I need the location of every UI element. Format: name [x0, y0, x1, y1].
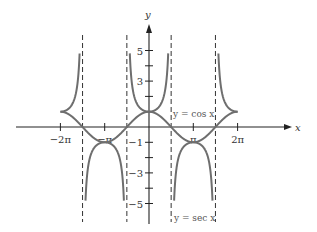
axes: x y: [16, 9, 301, 224]
y-axis-label: y: [144, 9, 151, 20]
x-axis-arrow-icon: [284, 124, 292, 130]
y-tick-label: −5: [128, 199, 143, 210]
sec-curve-label: y = sec x: [173, 213, 215, 223]
cos-sec-graph: x y −2π−ππ2π53−1−3−5 y = cos x y = sec x: [0, 0, 317, 232]
y-tick-label: 5: [137, 46, 143, 57]
x-tick-label: 2π: [231, 134, 244, 145]
y-tick-label: −1: [128, 137, 143, 148]
x-axis-label: x: [295, 122, 301, 133]
y-tick-label: −3: [128, 168, 143, 179]
y-tick-label: 3: [137, 76, 143, 87]
x-tick-label: −2π: [50, 134, 72, 145]
cos-curve-label: y = cos x: [172, 109, 214, 119]
y-axis-arrow-icon: [146, 24, 152, 33]
